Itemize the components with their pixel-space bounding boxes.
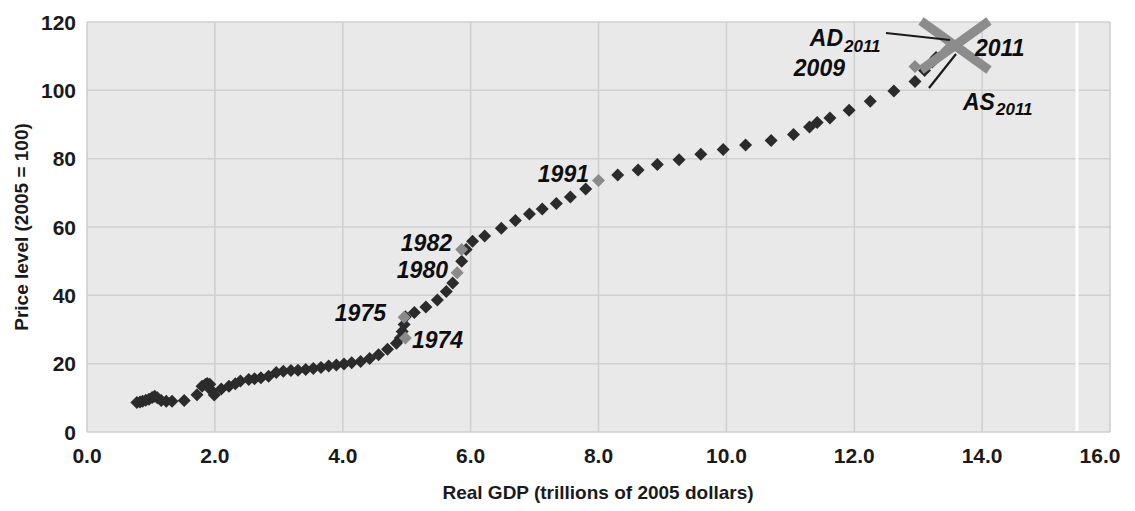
- x-tick-label: 14.0: [962, 444, 1003, 467]
- y-tick-label: 60: [53, 216, 76, 239]
- annotation-year-1975: 1975: [335, 300, 387, 326]
- x-tick-label: 16.0: [1080, 444, 1121, 467]
- x-tick-label: 10.0: [706, 444, 747, 467]
- annotation-year-1991: 1991: [538, 161, 589, 187]
- y-axis-title: Price level (2005 = 100): [11, 123, 32, 331]
- x-tick-label: 2.0: [200, 444, 229, 467]
- y-tick-label: 40: [53, 284, 76, 307]
- x-tick-label: 4.0: [328, 444, 357, 467]
- x-tick-label: 6.0: [456, 444, 485, 467]
- x-tick-label: 12.0: [834, 444, 875, 467]
- y-tick-label: 120: [41, 11, 76, 34]
- y-tick-label: 100: [41, 79, 76, 102]
- annotation-year-1974: 1974: [412, 327, 463, 353]
- as-label-subscript: 2011: [995, 100, 1033, 119]
- ad-label-main: AD: [809, 25, 843, 51]
- annotation-year-1982: 1982: [401, 230, 452, 256]
- price-level-vs-real-gdp-scatter: 120 100 80 60 40 20 0 0.0 2.0 4.0 6.0 8.…: [0, 0, 1135, 511]
- y-tick-label: 0: [64, 421, 76, 444]
- annotation-year-1980: 1980: [397, 257, 448, 283]
- x-axis-title: Real GDP (trillions of 2005 dollars): [442, 482, 753, 503]
- annotation-year-2009: 2009: [793, 55, 845, 81]
- y-tick-label: 20: [53, 352, 76, 375]
- ad-label-subscript: 2011: [843, 37, 881, 56]
- x-tick-label: 8.0: [584, 444, 613, 467]
- y-tick-label: 80: [53, 147, 76, 170]
- chart-figure: 120 100 80 60 40 20 0 0.0 2.0 4.0 6.0 8.…: [0, 0, 1135, 511]
- as-label-main: AS: [962, 89, 996, 115]
- annotation-year-2011: 2011: [974, 35, 1024, 61]
- x-tick-label: 0.0: [72, 444, 101, 467]
